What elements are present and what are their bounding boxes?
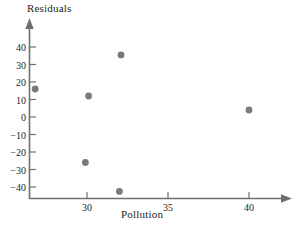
data-point <box>85 93 92 100</box>
data-point <box>116 188 123 195</box>
y-tick-label: 40 <box>0 42 26 53</box>
data-point <box>118 51 125 58</box>
plot-canvas <box>0 0 302 227</box>
y-tick-label: 0 <box>0 112 26 123</box>
x-tick-label: 35 <box>153 202 183 213</box>
residuals-scatter-plot: Residuals Pollution 403020100−10−20−30−4… <box>0 0 302 227</box>
x-tick-label: 40 <box>234 202 264 213</box>
y-tick-label: −20 <box>0 147 26 158</box>
y-axis-arrow-icon <box>25 18 33 29</box>
y-tick-label: −40 <box>0 182 26 193</box>
y-tick-label: 30 <box>0 59 26 70</box>
x-tick-label: 30 <box>72 202 102 213</box>
tick-mark-layer <box>30 47 250 199</box>
y-tick-label: −30 <box>0 164 26 175</box>
y-axis-title: Residuals <box>27 2 72 14</box>
data-point-layer <box>32 51 253 194</box>
data-point <box>246 107 253 114</box>
data-point <box>32 86 39 93</box>
y-tick-label: −10 <box>0 129 26 140</box>
x-axis-arrow-icon <box>281 194 292 203</box>
y-tick-label: 10 <box>0 94 26 105</box>
data-point <box>82 159 89 166</box>
y-tick-label: 20 <box>0 77 26 88</box>
